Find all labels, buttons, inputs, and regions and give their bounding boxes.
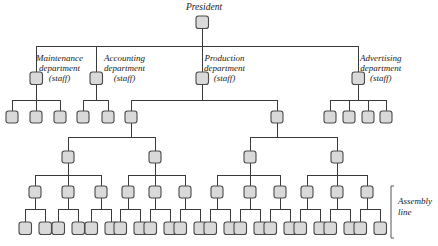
node-foreman[interactable]	[149, 186, 161, 198]
connector-group-prod-left	[68, 123, 155, 151]
node-staff[interactable]	[324, 111, 336, 123]
connector-group-assembly	[25, 198, 380, 222]
node-assembly-worker[interactable]	[39, 222, 52, 235]
label-line-2: department	[360, 63, 402, 73]
node-assembly-worker[interactable]	[264, 222, 277, 235]
connector-group-foremen-4	[307, 163, 367, 186]
node-staff[interactable]	[30, 111, 42, 123]
connector-group-accounting	[83, 84, 108, 111]
label-line-3: (staff)	[104, 73, 145, 83]
connector-group-prod-right	[250, 123, 337, 151]
node-foreman[interactable]	[29, 186, 41, 198]
node-group-level5[interactable]	[19, 222, 387, 235]
node-supervisor[interactable]	[244, 151, 256, 163]
label-department-production: Production department (staff)	[204, 53, 245, 83]
label-line-3: (staff)	[360, 73, 402, 83]
node-group-level2[interactable]	[6, 111, 392, 123]
node-assembly-worker[interactable]	[234, 222, 247, 235]
assembly-line-bracket	[391, 186, 394, 238]
label-line-1: Maintenance	[36, 53, 83, 63]
connector-group-foremen-2	[128, 163, 185, 186]
node-assembly-worker[interactable]	[174, 222, 187, 235]
node-foreman[interactable]	[274, 186, 286, 198]
node-assembly-worker[interactable]	[52, 222, 65, 235]
node-supervisor[interactable]	[62, 151, 74, 163]
label-line-3: (staff)	[204, 73, 245, 83]
node-assembly-worker[interactable]	[354, 222, 367, 235]
node-assembly-worker[interactable]	[324, 222, 337, 235]
node-staff[interactable]	[380, 111, 392, 123]
connector-group-root	[36, 28, 358, 72]
label-line-2: department	[36, 63, 83, 73]
label-line-1: Production	[204, 53, 245, 63]
node-supervisor[interactable]	[149, 151, 161, 163]
node-supervisor[interactable]	[331, 151, 343, 163]
label-line-1: Accounting	[104, 53, 145, 63]
connector-group-foremen-1	[35, 163, 101, 186]
node-foreman[interactable]	[211, 186, 223, 198]
node-staff[interactable]	[6, 111, 18, 123]
node-foreman[interactable]	[301, 186, 313, 198]
label-line-2: line	[398, 207, 432, 218]
node-staff[interactable]	[271, 111, 283, 123]
label-line-2: department	[204, 63, 245, 73]
node-assembly-worker[interactable]	[204, 222, 217, 235]
label-department-accounting: Accounting department (staff)	[104, 53, 145, 83]
node-staff[interactable]	[77, 111, 89, 123]
node-assembly-worker[interactable]	[114, 222, 127, 235]
node-assembly-worker[interactable]	[374, 222, 387, 235]
node-assembly-worker[interactable]	[294, 222, 307, 235]
node-foreman[interactable]	[244, 186, 256, 198]
node-foreman[interactable]	[62, 186, 74, 198]
label-department-maintenance: Maintenance department (staff)	[36, 53, 83, 83]
org-chart-canvas	[0, 0, 438, 246]
node-assembly-worker[interactable]	[72, 222, 85, 235]
node-staff[interactable]	[343, 111, 355, 123]
node-department-accounting[interactable]	[90, 72, 103, 85]
node-staff[interactable]	[102, 111, 114, 123]
node-staff[interactable]	[362, 111, 374, 123]
label-line-1: Assembly	[398, 196, 432, 207]
node-staff[interactable]	[54, 111, 66, 123]
node-foreman[interactable]	[361, 186, 373, 198]
node-assembly-worker[interactable]	[19, 222, 32, 235]
node-foreman[interactable]	[122, 186, 134, 198]
node-assembly-worker[interactable]	[144, 222, 157, 235]
label-president: President	[176, 2, 232, 13]
node-group-level3[interactable]	[62, 151, 343, 163]
node-group-level4[interactable]	[29, 186, 373, 198]
node-president[interactable]	[196, 16, 209, 29]
node-foreman[interactable]	[95, 186, 107, 198]
connector-group-maintenance	[12, 84, 60, 111]
connector-group-advertising	[330, 84, 386, 111]
label-line-2: department	[104, 63, 145, 73]
connector-group-foremen-3	[217, 163, 280, 186]
node-assembly-worker[interactable]	[85, 222, 98, 235]
org-chart-diagram: President Maintenance department (staff)…	[0, 0, 438, 246]
node-foreman[interactable]	[179, 186, 191, 198]
label-department-advertising: Advertising department (staff)	[360, 53, 402, 83]
connector-group-production	[131, 84, 277, 111]
label-line-1: Advertising	[360, 53, 402, 63]
label-assembly-line: Assembly line	[398, 196, 432, 219]
node-staff[interactable]	[125, 111, 137, 123]
label-line-3: (staff)	[36, 73, 83, 83]
node-foreman[interactable]	[331, 186, 343, 198]
